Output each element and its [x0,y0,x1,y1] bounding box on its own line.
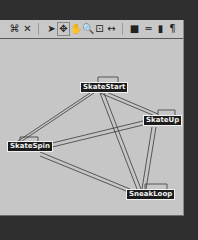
motion-flow-window: ⌘ ✕ ➤ ✥ ✋ 🔍 ⊡ ↔ ■ ═ ▮ ¶ [0,20,184,216]
toolbar-separator [38,23,39,35]
script-icon[interactable]: ¶ [167,23,178,35]
zoom-extents-icon[interactable]: ↔ [106,23,117,35]
zoom-icon[interactable]: 🔍 [82,23,93,35]
state-node-skatespin[interactable]: SkateSpin [7,141,53,152]
state-node-sneakloop[interactable]: SneakLoop [126,189,175,200]
zoom-region-icon[interactable]: ⊡ [94,23,105,35]
select-arrow-icon[interactable]: ➤ [46,23,57,35]
new-state-icon[interactable]: ■ [129,23,140,35]
toolbar-separator [122,23,123,35]
frame-all-icon[interactable]: ⌘ [9,23,20,35]
transition-icon[interactable]: ═ [143,23,154,35]
state-node-skatestart[interactable]: SkateStart [80,82,128,93]
cylinder-icon[interactable]: ▮ [155,23,166,35]
pan-hand-icon[interactable]: ✋ [70,23,81,35]
state-node-skateup[interactable]: SkateUp [143,115,182,126]
toolbar: ⌘ ✕ ➤ ✥ ✋ 🔍 ⊡ ↔ ■ ═ ▮ ¶ [0,20,183,39]
graph-canvas[interactable]: SkateStart SkateUp SkateSpin SneakLoop [0,39,183,215]
delete-icon[interactable]: ✕ [22,23,33,35]
move-icon[interactable]: ✥ [57,22,70,36]
